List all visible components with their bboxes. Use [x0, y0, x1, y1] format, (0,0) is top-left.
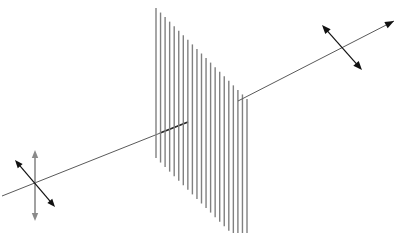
diagram-canvas: [0, 0, 403, 233]
polarization-diagram: [0, 0, 403, 233]
